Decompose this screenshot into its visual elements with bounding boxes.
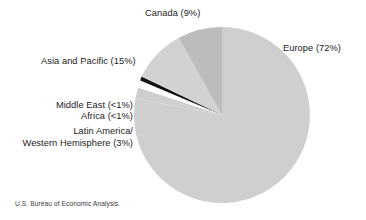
pie-label-asia-pacific: Asia and Pacific (15%)	[41, 56, 136, 68]
pie-chart-figure: Canada (9%) Europe (72%) Asia and Pacifi…	[0, 0, 366, 220]
pie-label-europe: Europe (72%)	[283, 43, 341, 55]
pie-label-latin-america-line2: Western Hemisphere (3%)	[0, 138, 133, 150]
pie-label-africa: Africa (<1%)	[81, 111, 133, 123]
pie-label-latin-america-line1: Latin America/	[0, 126, 133, 138]
pie-chart-graphic	[0, 0, 366, 220]
pie-label-middle-east: Middle East (<1%)	[56, 100, 133, 112]
pie-label-latin-america: Latin America/ Western Hemisphere (3%)	[0, 126, 133, 149]
pie-label-canada: Canada (9%)	[145, 8, 200, 20]
source-note: U.S. Bureau of Economic Analysis.	[15, 200, 120, 207]
